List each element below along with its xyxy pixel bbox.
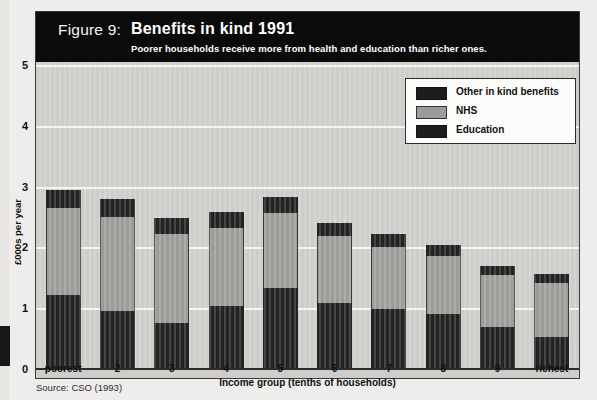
figure-number: Figure 9: <box>58 21 121 39</box>
bar-segment-nhs <box>426 256 461 314</box>
bar-segment-nhs <box>534 283 569 337</box>
bar-segment-nhs <box>317 236 352 303</box>
bar-8 <box>426 245 461 370</box>
legend-label-education: Education <box>456 124 504 135</box>
page-title: Benefits in kind 1991 <box>131 20 294 38</box>
bar-segment-other-in-kind-benefits <box>426 245 461 256</box>
bar-6 <box>317 223 352 370</box>
bar-segment-education <box>46 295 81 370</box>
y-axis-tick-label: 1 <box>8 302 28 314</box>
bar-segment-education <box>317 303 352 370</box>
legend-label-other: Other in kind benefits <box>456 86 559 97</box>
bar-5 <box>263 197 298 370</box>
bar-segment-nhs <box>154 234 189 323</box>
bar-segment-other-in-kind-benefits <box>371 234 406 247</box>
legend-swatch-icon-nhs <box>416 106 447 119</box>
bar-segment-education <box>263 288 298 370</box>
bar-segment-other-in-kind-benefits <box>209 212 244 228</box>
bar-segment-other-in-kind-benefits <box>100 199 135 217</box>
y-axis-tick-label: 3 <box>8 181 28 193</box>
bar-segment-nhs <box>371 247 406 308</box>
y-axis-tick-label: 4 <box>8 120 28 132</box>
bar-segment-other-in-kind-benefits <box>534 274 569 283</box>
bar-segment-education <box>426 314 461 370</box>
figure-container: Figure 9: Benefits in kind 1991 Poorer h… <box>0 0 597 400</box>
bar-richest <box>534 274 569 370</box>
gridline <box>36 187 579 189</box>
bar-segment-education <box>209 306 244 370</box>
bar-segment-other-in-kind-benefits <box>480 266 515 275</box>
legend-label-nhs: NHS <box>456 105 477 116</box>
bar-segment-nhs <box>209 228 244 306</box>
bar-poorest <box>46 190 81 370</box>
bar-3 <box>154 218 189 370</box>
y-axis-title: £000s per year <box>12 199 23 265</box>
bar-9 <box>480 266 515 370</box>
bar-segment-other-in-kind-benefits <box>263 197 298 212</box>
title-banner: Figure 9: Benefits in kind 1991 Poorer h… <box>36 12 579 62</box>
bar-4 <box>209 212 244 370</box>
source-note: Source: CSO (1993) <box>36 382 122 393</box>
bar-segment-other-in-kind-benefits <box>46 190 81 208</box>
bar-segment-other-in-kind-benefits <box>154 218 189 234</box>
legend-swatch-icon-other <box>416 87 447 100</box>
scan-artifact <box>0 326 10 366</box>
bar-segment-nhs <box>46 208 81 295</box>
legend: Other in kind benefits NHS Education <box>405 78 576 144</box>
legend-swatch-icon-education <box>416 125 447 138</box>
y-axis-tick-label: 5 <box>8 59 28 71</box>
bar-2 <box>100 199 135 370</box>
x-axis-tick-label: richest <box>512 363 592 374</box>
bar-segment-nhs <box>263 213 298 288</box>
gridline <box>36 65 579 67</box>
bar-segment-education <box>100 311 135 370</box>
bar-7 <box>371 234 406 370</box>
figure-subtitle: Poorer households receive more from heal… <box>131 43 487 54</box>
bar-segment-other-in-kind-benefits <box>317 223 352 236</box>
bar-segment-nhs <box>100 217 135 311</box>
bar-segment-education <box>371 309 406 370</box>
bar-segment-nhs <box>480 275 515 327</box>
